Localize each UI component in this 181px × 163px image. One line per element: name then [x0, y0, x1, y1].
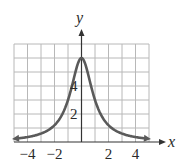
x-tick-label: 4	[132, 146, 140, 162]
x-tick-label: −2	[47, 146, 63, 162]
function-graph: x y −4−22424	[0, 0, 181, 163]
curve-arrow-icon	[144, 135, 151, 142]
curve-arrow-icon	[12, 135, 19, 142]
x-tick-label: 2	[105, 146, 113, 162]
x-axis-label: x	[167, 133, 175, 150]
x-axis-arrow-icon	[159, 139, 166, 145]
y-axis-label: y	[74, 9, 84, 27]
y-tick-label: 2	[70, 106, 78, 122]
y-axis-arrow-icon	[79, 29, 85, 36]
y-tick-label: 4	[70, 78, 78, 94]
x-tick-label: −4	[20, 146, 36, 162]
